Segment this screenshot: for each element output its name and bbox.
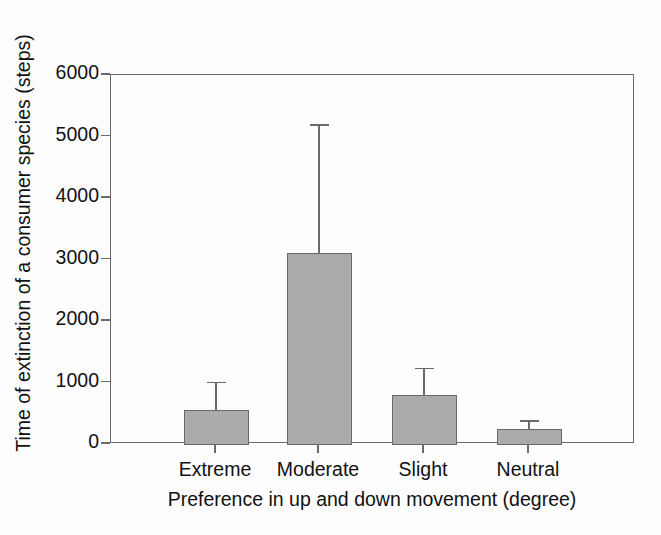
y-tick-label: 4000 bbox=[56, 184, 99, 207]
y-tick-mark bbox=[101, 381, 110, 383]
bar-neutral bbox=[497, 429, 562, 445]
bar-chart-figure: Time of extinction of a consumer species… bbox=[0, 0, 661, 535]
y-tick-label: 2000 bbox=[56, 307, 99, 330]
y-tick-label: 3000 bbox=[56, 246, 99, 269]
y-tick-label: 6000 bbox=[56, 61, 99, 84]
y-tick-mark bbox=[101, 73, 110, 75]
error-bar-cap-extreme bbox=[207, 382, 226, 384]
y-axis-title: Time of extinction of a consumer species… bbox=[8, 8, 38, 478]
y-tick-mark bbox=[101, 319, 110, 321]
y-tick-label: 5000 bbox=[56, 123, 99, 146]
error-bar-cap-moderate bbox=[310, 124, 329, 126]
error-bar-stem-extreme bbox=[215, 382, 217, 410]
x-tick-mark-extreme bbox=[214, 444, 216, 453]
x-tick-label-neutral: Neutral bbox=[497, 458, 560, 481]
y-tick-mark bbox=[101, 135, 110, 137]
bar-slight bbox=[392, 395, 457, 445]
bar-moderate bbox=[287, 253, 352, 445]
x-tick-mark-neutral bbox=[527, 444, 529, 453]
error-bar-stem-moderate bbox=[318, 124, 320, 253]
x-tick-mark-moderate bbox=[317, 444, 319, 453]
y-tick-mark bbox=[101, 258, 110, 260]
y-tick-mark bbox=[101, 196, 110, 198]
x-tick-mark-slight bbox=[422, 444, 424, 453]
x-axis-title: Preference in up and down movement (degr… bbox=[110, 488, 634, 511]
y-tick-label: 0 bbox=[88, 430, 99, 453]
bar-extreme bbox=[184, 410, 249, 445]
x-tick-label-slight: Slight bbox=[399, 458, 448, 481]
error-bar-stem-slight bbox=[423, 368, 425, 395]
plot-area bbox=[110, 74, 634, 443]
error-bar-cap-neutral bbox=[520, 420, 539, 422]
error-bar-cap-slight bbox=[415, 368, 434, 370]
x-tick-label-moderate: Moderate bbox=[277, 458, 359, 481]
x-tick-label-extreme: Extreme bbox=[179, 458, 252, 481]
y-tick-label: 1000 bbox=[56, 369, 99, 392]
y-tick-mark bbox=[101, 442, 110, 444]
